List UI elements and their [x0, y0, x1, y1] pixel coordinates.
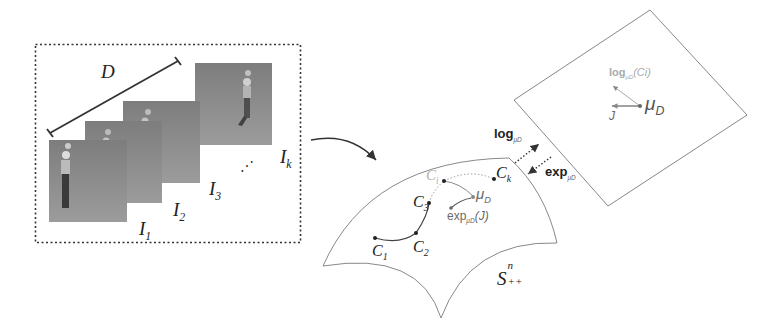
exp-j-arrow — [451, 198, 471, 208]
ellipsis: ⋰ — [240, 160, 254, 174]
exp-map-label: expμD — [545, 165, 576, 181]
distance-label: D — [101, 62, 115, 81]
point-label-c3: C3 — [413, 194, 429, 213]
trajectory-dotted-top — [444, 174, 494, 181]
point-label-ck: Ck — [496, 165, 511, 184]
point-c2 — [414, 231, 418, 235]
transition-arrow — [311, 138, 376, 160]
tangent-mean-label: μD — [645, 94, 664, 117]
mean-label-manifold: μD — [476, 186, 491, 205]
point-label-ci: Ci — [426, 168, 439, 186]
point-label-c2: C2 — [413, 239, 429, 258]
frame-label-3: I3 — [209, 179, 221, 203]
tangent-log-label: logμD(Ci) — [609, 67, 651, 80]
tangent-j-label: J — [609, 110, 615, 122]
point-ci — [442, 179, 446, 183]
manifold-surface — [323, 158, 557, 318]
log-arrow — [515, 144, 539, 163]
frame-1 — [49, 140, 127, 222]
exp-j-label: expμD(J) — [447, 210, 489, 225]
tangent-log-vector — [613, 86, 640, 106]
frame-label-k: Ik — [280, 147, 292, 171]
log-map-label: logμD — [494, 127, 522, 143]
diagram-canvas — [0, 0, 782, 334]
frame-k — [195, 63, 272, 145]
manifold-label: Sn++ — [497, 269, 507, 288]
point-label-c1: C1 — [372, 243, 388, 262]
tangent-mean-point — [638, 104, 642, 108]
point-c1 — [373, 236, 377, 240]
ci-to-mean — [444, 181, 473, 196]
frame-label-1: I1 — [139, 219, 151, 243]
frame-label-2: I2 — [173, 200, 185, 224]
point-mean — [471, 195, 475, 199]
